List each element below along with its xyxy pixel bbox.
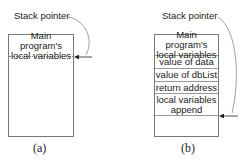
stack-cell: value of dbList xyxy=(155,69,218,82)
stack-cell: local variables append xyxy=(155,94,218,116)
stack-pointer-label-a: Stack pointer xyxy=(14,10,69,21)
caption-b: (b) xyxy=(181,141,195,156)
stack-b: Main program's local variables value of … xyxy=(154,34,219,137)
stack-cell: Main program's local variables xyxy=(155,35,218,56)
stack-pointer-label-b: Stack pointer xyxy=(162,10,217,21)
stack-cell: value of data xyxy=(155,56,218,69)
stack-cell: return address xyxy=(155,82,218,94)
pointer-curve-b xyxy=(218,17,236,113)
stack-cell: Main program's local variables xyxy=(9,35,73,57)
stack-a: Main program's local variables xyxy=(8,34,74,137)
caption-a: (a) xyxy=(33,141,46,156)
